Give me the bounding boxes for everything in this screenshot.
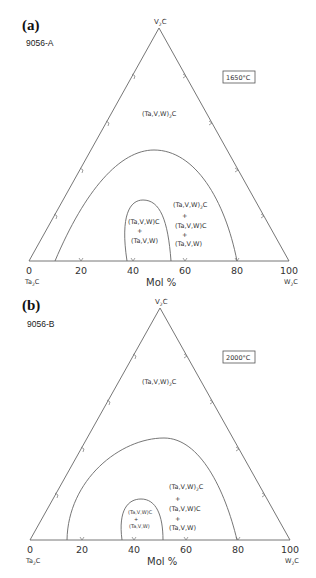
svg-text:100: 100 — [281, 544, 299, 555]
svg-text:+: + — [182, 231, 187, 239]
svg-text:(Ta,V,W)C: (Ta,V,W)C — [128, 218, 160, 226]
panel-b-x-axis-label: Mol % — [147, 556, 177, 567]
svg-text:80: 80 — [232, 544, 244, 555]
svg-text:(Ta,V,W)C: (Ta,V,W)C — [128, 509, 153, 515]
panel-a-right-edge-ticks — [183, 74, 264, 218]
panel-a: (a) 9056-A V2C — [22, 17, 298, 288]
panel-a-two-phase-boundary — [125, 200, 171, 261]
svg-text:+: + — [134, 516, 138, 522]
svg-text:60: 60 — [180, 544, 192, 555]
svg-text:+: + — [182, 212, 187, 220]
svg-text:(Ta,V,W): (Ta,V,W) — [175, 240, 202, 248]
svg-text:60: 60 — [179, 265, 191, 276]
figure: (a) 9056-A V2C — [0, 0, 316, 578]
svg-text:+: + — [175, 515, 180, 523]
svg-text:(Ta,V,W)C: (Ta,V,W)C — [175, 222, 207, 230]
svg-text:40: 40 — [127, 265, 139, 276]
panel-a-label: (a) — [22, 17, 40, 34]
panel-b-two-phase-boundary — [121, 499, 163, 540]
panel-b-right-edge-ticks — [184, 354, 265, 497]
panel-b-triangle — [30, 308, 290, 540]
panel-b-left-vertex-label: Ta2C — [25, 557, 41, 566]
panel-b-region-single-phase: (Ta,V,W)2C — [142, 378, 177, 387]
panel-a-apex-label: V2C — [154, 18, 167, 27]
svg-text:(Ta,V,W): (Ta,V,W) — [131, 237, 158, 245]
panel-b: (b) 9056-B V2C 2000°C (Ta,V,W)2C — [22, 297, 299, 567]
svg-text:+: + — [175, 495, 180, 503]
panel-a-triangle — [29, 28, 289, 261]
svg-text:(Ta,V,W)2C: (Ta,V,W)2C — [169, 483, 204, 492]
panel-b-region-two-phase: (Ta,V,W)C + (Ta,V,W) — [128, 509, 153, 529]
svg-text:(Ta,V,W): (Ta,V,W) — [129, 523, 150, 529]
panel-a-left-vertex-label: Ta2C — [24, 278, 40, 287]
svg-text:+: + — [137, 227, 142, 235]
panel-b-left-edge-ticks — [55, 354, 136, 498]
panel-a-right-vertex-label: W2C — [284, 278, 298, 287]
panel-b-sample-id: 9056-B — [27, 319, 55, 329]
svg-text:(Ta,V,W)C: (Ta,V,W)C — [169, 505, 201, 513]
panel-a-x-axis-label: Mol % — [146, 277, 176, 288]
svg-text:(Ta,V,W)2C: (Ta,V,W)2C — [173, 201, 208, 210]
panel-a-left-edge-ticks — [54, 74, 135, 219]
svg-text:0: 0 — [26, 265, 32, 276]
svg-text:20: 20 — [75, 265, 87, 276]
svg-text:40: 40 — [128, 544, 140, 555]
svg-text:100: 100 — [280, 265, 298, 276]
panel-b-apex-label: V2C — [155, 298, 168, 307]
panel-a-region-three-phase: (Ta,V,W)2C + (Ta,V,W)C + (Ta,V,W) — [173, 201, 208, 248]
svg-text:(Ta,V,W): (Ta,V,W) — [169, 524, 196, 532]
panel-b-right-vertex-label: W2C — [285, 557, 299, 566]
svg-text:0: 0 — [27, 544, 33, 555]
svg-text:20: 20 — [76, 544, 88, 555]
svg-text:80: 80 — [231, 265, 243, 276]
panel-b-label: (b) — [22, 297, 40, 314]
panel-b-x-ticks: 0 20 40 60 80 100 — [27, 544, 299, 555]
panel-a-x-ticks: 0 20 40 60 80 100 — [26, 265, 298, 276]
panel-a-temperature: 1650°C — [226, 74, 251, 82]
panel-b-three-phase-boundary — [67, 438, 237, 540]
panel-b-temperature: 2000°C — [226, 354, 251, 362]
panel-a-region-two-phase: (Ta,V,W)C + (Ta,V,W) — [128, 218, 160, 245]
panel-a-sample-id: 9056-A — [26, 38, 54, 48]
panel-a-region-single-phase: (Ta,V,W)2C — [142, 110, 177, 119]
panel-b-region-three-phase: (Ta,V,W)2C + (Ta,V,W)C + (Ta,V,W) — [169, 483, 204, 532]
